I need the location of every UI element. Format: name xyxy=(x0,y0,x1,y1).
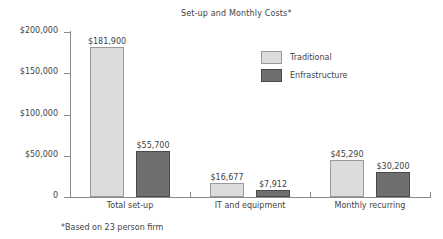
legend-item-traditional: Traditional xyxy=(261,51,332,64)
bar-value-label: $45,290 xyxy=(330,150,363,159)
bar-traditional: $181,900 xyxy=(90,47,124,197)
chart-footnote: *Based on 23 person firm xyxy=(61,223,163,232)
y-axis-tick-label: $50,000 xyxy=(0,150,58,159)
bar-value-label: $30,200 xyxy=(376,162,409,171)
bar-traditional: $45,290 xyxy=(330,160,364,197)
y-axis-tick-label: $150,000 xyxy=(0,67,58,76)
bar-value-label: $55,700 xyxy=(136,141,169,150)
bar-value-label: $7,912 xyxy=(259,180,287,189)
x-axis-label: Monthly recurring xyxy=(335,201,406,210)
x-axis-label: IT and equipment xyxy=(215,201,286,210)
bar-enfrastructure: $7,912 xyxy=(256,190,290,197)
plot-area: $181,900$55,700$16,677$7,912$45,290$30,2… xyxy=(70,32,430,197)
bar-value-label: $181,900 xyxy=(88,37,126,46)
y-axis-tick-label: $100,000 xyxy=(0,109,58,118)
bar-chart: Set-up and Monthly Costs* 0$50,000$100,0… xyxy=(0,0,443,239)
bar-enfrastructure: $55,700 xyxy=(136,151,170,197)
bar-traditional: $16,677 xyxy=(210,183,244,197)
legend-item-enfrastructure: Enfrastructure xyxy=(261,69,347,82)
y-axis-tick-label: 0 xyxy=(0,191,58,200)
legend-swatch-traditional xyxy=(261,51,282,64)
legend-swatch-enfrastructure xyxy=(261,69,282,82)
legend-label-enfrastructure: Enfrastructure xyxy=(290,71,347,80)
y-axis-tick-label: $200,000 xyxy=(0,26,58,35)
x-axis-label: Total set-up xyxy=(107,201,154,210)
bar-value-label: $16,677 xyxy=(210,173,243,182)
bar-enfrastructure: $30,200 xyxy=(376,172,410,197)
x-axis-line xyxy=(70,197,430,198)
x-axis-separator-tick xyxy=(430,192,431,198)
chart-title: Set-up and Monthly Costs* xyxy=(181,9,292,18)
legend-label-traditional: Traditional xyxy=(290,53,332,62)
